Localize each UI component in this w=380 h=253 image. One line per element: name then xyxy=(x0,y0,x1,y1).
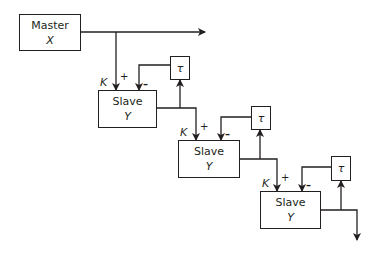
plus-sign-2: + xyxy=(200,121,208,132)
plus-sign-3: + xyxy=(281,172,289,183)
slave-label: Slave xyxy=(112,94,142,109)
gain-label-1: K xyxy=(100,77,107,88)
master-variable: X xyxy=(46,33,54,48)
slave3-input-arrow xyxy=(240,159,277,191)
slave-variable: Y xyxy=(287,210,294,225)
slave-label: Slave xyxy=(275,195,305,210)
slave3-output-arrow xyxy=(321,210,357,240)
minus-sign-3: – xyxy=(306,180,311,191)
delay-block-1: τ xyxy=(170,56,190,80)
slave-variable: Y xyxy=(206,159,213,174)
delay-block-2: τ xyxy=(251,106,271,130)
gain-label-3: K xyxy=(262,178,269,189)
delay-block-3: τ xyxy=(331,156,351,181)
slave2-input-arrow xyxy=(157,108,196,140)
minus-sign-1: – xyxy=(143,79,148,90)
slave-block-2: Slave Y xyxy=(178,140,240,178)
master-block: Master X xyxy=(19,14,81,51)
gain-label-2: K xyxy=(180,127,187,138)
slave-block-3: Slave Y xyxy=(260,191,321,229)
plus-sign-1: + xyxy=(120,71,128,82)
slave-block-1: Slave Y xyxy=(98,90,157,128)
master-label: Master xyxy=(31,18,69,33)
slave-label: Slave xyxy=(194,144,224,159)
minus-sign-2: – xyxy=(225,129,230,140)
slave-variable: Y xyxy=(124,109,131,124)
